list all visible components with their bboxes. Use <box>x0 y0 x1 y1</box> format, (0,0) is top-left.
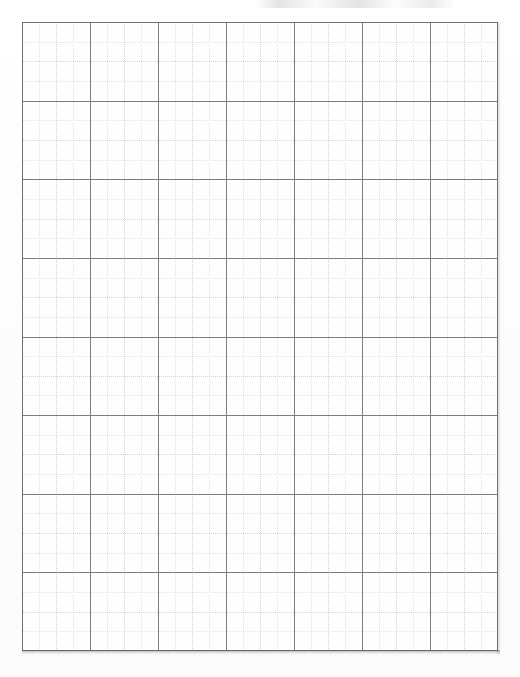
major-gridline-layer <box>22 22 498 651</box>
major-gridline-horizontal <box>22 415 498 416</box>
major-gridline-horizontal <box>22 337 498 338</box>
major-gridline-horizontal <box>22 494 498 495</box>
graph-paper-page <box>0 0 520 677</box>
graph-grid <box>22 22 498 651</box>
major-gridline-horizontal <box>22 101 498 102</box>
major-gridline-horizontal <box>22 179 498 180</box>
major-gridline-horizontal <box>22 258 498 259</box>
scan-smudge-top <box>255 0 455 8</box>
major-gridline-horizontal <box>22 572 498 573</box>
